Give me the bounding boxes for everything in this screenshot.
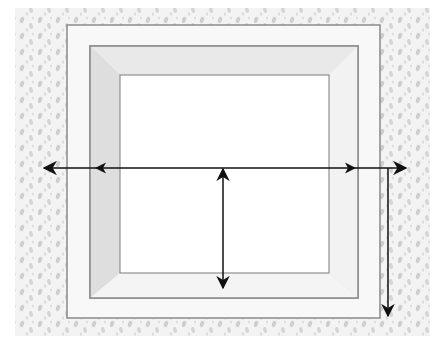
mat-bevel-top xyxy=(90,46,358,75)
inner-opening xyxy=(120,75,329,273)
framed-picture-diagram xyxy=(0,0,441,340)
mat-bevel-bottom xyxy=(90,273,358,298)
mat-bevel-right xyxy=(329,46,358,298)
